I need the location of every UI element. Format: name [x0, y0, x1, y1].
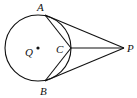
geometry-diagram: A B C P Q [0, 0, 137, 98]
label-b: B [40, 85, 47, 97]
label-p: P [126, 42, 134, 54]
label-a: A [36, 1, 44, 13]
label-c: C [56, 43, 64, 55]
label-q: Q [25, 46, 33, 58]
center-dot [36, 46, 39, 49]
